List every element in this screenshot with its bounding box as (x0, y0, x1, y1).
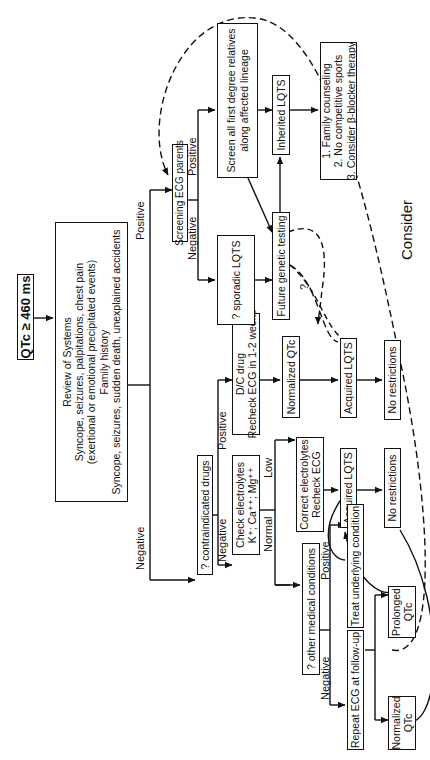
dc-drug-line-1: D/C drug (234, 353, 246, 395)
review-line-4: Family history (98, 330, 110, 395)
inherited-lqts-text: Inherited LQTS (275, 79, 287, 150)
prolonged-qtc-line-2: QTc (402, 603, 414, 622)
label-parents-positive: Positive (186, 137, 198, 176)
normalized-qtc-box-a: Normalized QTc (282, 336, 300, 418)
inherited-lqts-box: Inherited LQTS (272, 75, 290, 155)
contraindicated-drugs-text: ? contraindicated drugs (199, 460, 211, 569)
normalized-qtc-text-a: Normalized QTc (285, 340, 297, 415)
review-line-1: Review of Systems (61, 317, 73, 406)
no-restrictions-text-a: No restrictions (386, 346, 398, 413)
label-electrolytes-normal: Normal (262, 517, 274, 552)
no-restrictions-box-a: No restrictions (384, 340, 401, 420)
prolonged-qtc-line-1: Prolonged (390, 588, 402, 636)
management-box: 1. Family counseling 2. No competitive s… (320, 42, 357, 180)
management-line-2: 2. No competitive sports (332, 55, 344, 168)
screen-relatives-box: Screen all first degree relatives along … (217, 23, 258, 178)
other-medical-conditions-box: ? other medical conditions (302, 543, 320, 675)
contraindicated-drugs-box: ? contraindicated drugs (197, 455, 213, 575)
no-restrictions-text-b: No restrictions (386, 454, 398, 521)
check-electrolytes-line-1: Check electrolytes (234, 462, 246, 548)
other-medical-conditions-text: ? other medical conditions (305, 548, 317, 670)
figure-frame: QTc ≥ 460 ms Review of Systems Syncope, … (0, 0, 430, 760)
dc-drug-line-2: Recheck ECG in 1-2 weeks (246, 310, 258, 438)
label-conditions-negative: Negative (319, 657, 331, 700)
lqts-flowchart: QTc ≥ 460 ms Review of Systems Syncope, … (0, 0, 430, 760)
prolonged-qtc-box: Prolonged QTc (388, 586, 416, 638)
label-electrolytes-low: Low (262, 458, 274, 478)
repeat-ecg-box: Repeat ECG at follow-up (347, 630, 364, 750)
normalized-qtc-line-1-b: Normalized (390, 696, 402, 749)
normalized-qtc-line-2-b: QTc (402, 714, 414, 733)
sporadic-lqts-box: ? sporadic LQTS (217, 235, 255, 325)
management-line-3: 3. Consider β-blocker therapy (345, 42, 357, 180)
sporadic-lqts-text: ? sporadic LQTS (230, 241, 242, 320)
label-drugs-negative: Negative (216, 519, 228, 562)
correct-electrolytes-line-1: Correct electrolytes (298, 439, 310, 529)
acquired-lqts-box-a: Acquired LQTS (340, 338, 357, 418)
screen-relatives-line-1: Screen all first degree relatives (225, 28, 237, 172)
qtc-threshold-text: QTc ≥ 460 ms (18, 276, 33, 359)
label-conditions-positive: Positive (319, 541, 331, 580)
label-drugs-positive: Positive (216, 411, 228, 450)
management-line-1: 1. Family counseling (320, 63, 332, 159)
label-parents-negative: Negative (186, 217, 198, 260)
check-electrolytes-box: Check electrolytes K⁺; Ca⁺⁺; Mg⁺⁺ (232, 455, 260, 555)
qtc-threshold-box: QTc ≥ 460 ms (17, 274, 34, 360)
future-genetic-testing-text: Future genetic testing (275, 216, 287, 317)
correct-electrolytes-line-2: Recheck ECG (310, 451, 322, 518)
review-line-5: Syncope, seizures, sudden death, unexpla… (110, 230, 122, 495)
label-review-negative: Negative (134, 527, 146, 570)
no-restrictions-box-b: No restrictions (384, 448, 401, 528)
label-review-positive: Positive (134, 201, 146, 240)
review-of-systems-box: Review of Systems Syncope, seizures, pal… (55, 222, 128, 502)
label-genetic-question: ? (298, 284, 310, 290)
normalized-qtc-box-b: Normalized QTc (388, 696, 416, 750)
correct-electrolytes-box: Correct electrolytes Recheck ECG (296, 437, 324, 532)
treat-underlying-condition-box: Treat underlying condition (347, 504, 364, 628)
acquired-lqts-text-a: Acquired LQTS (342, 342, 354, 414)
label-consider: Consider (398, 200, 415, 260)
treat-underlying-condition-text: Treat underlying condition (349, 506, 361, 626)
screening-ecg-parents-text: Screening ECG parents (174, 140, 186, 246)
dc-drug-box: D/C drug Recheck ECG in 1-2 weeks (232, 313, 260, 435)
check-electrolytes-line-2: K⁺; Ca⁺⁺; Mg⁺⁺ (246, 467, 258, 544)
future-genetic-testing-box: Future genetic testing (272, 212, 290, 320)
repeat-ecg-text: Repeat ECG at follow-up (349, 632, 361, 748)
screen-relatives-line-2: along affected lineage (238, 49, 250, 152)
review-line-3: (exertional or emotional precipitated ev… (85, 260, 97, 464)
review-line-2: Syncope, seizures, palpitations, chest p… (73, 263, 85, 461)
